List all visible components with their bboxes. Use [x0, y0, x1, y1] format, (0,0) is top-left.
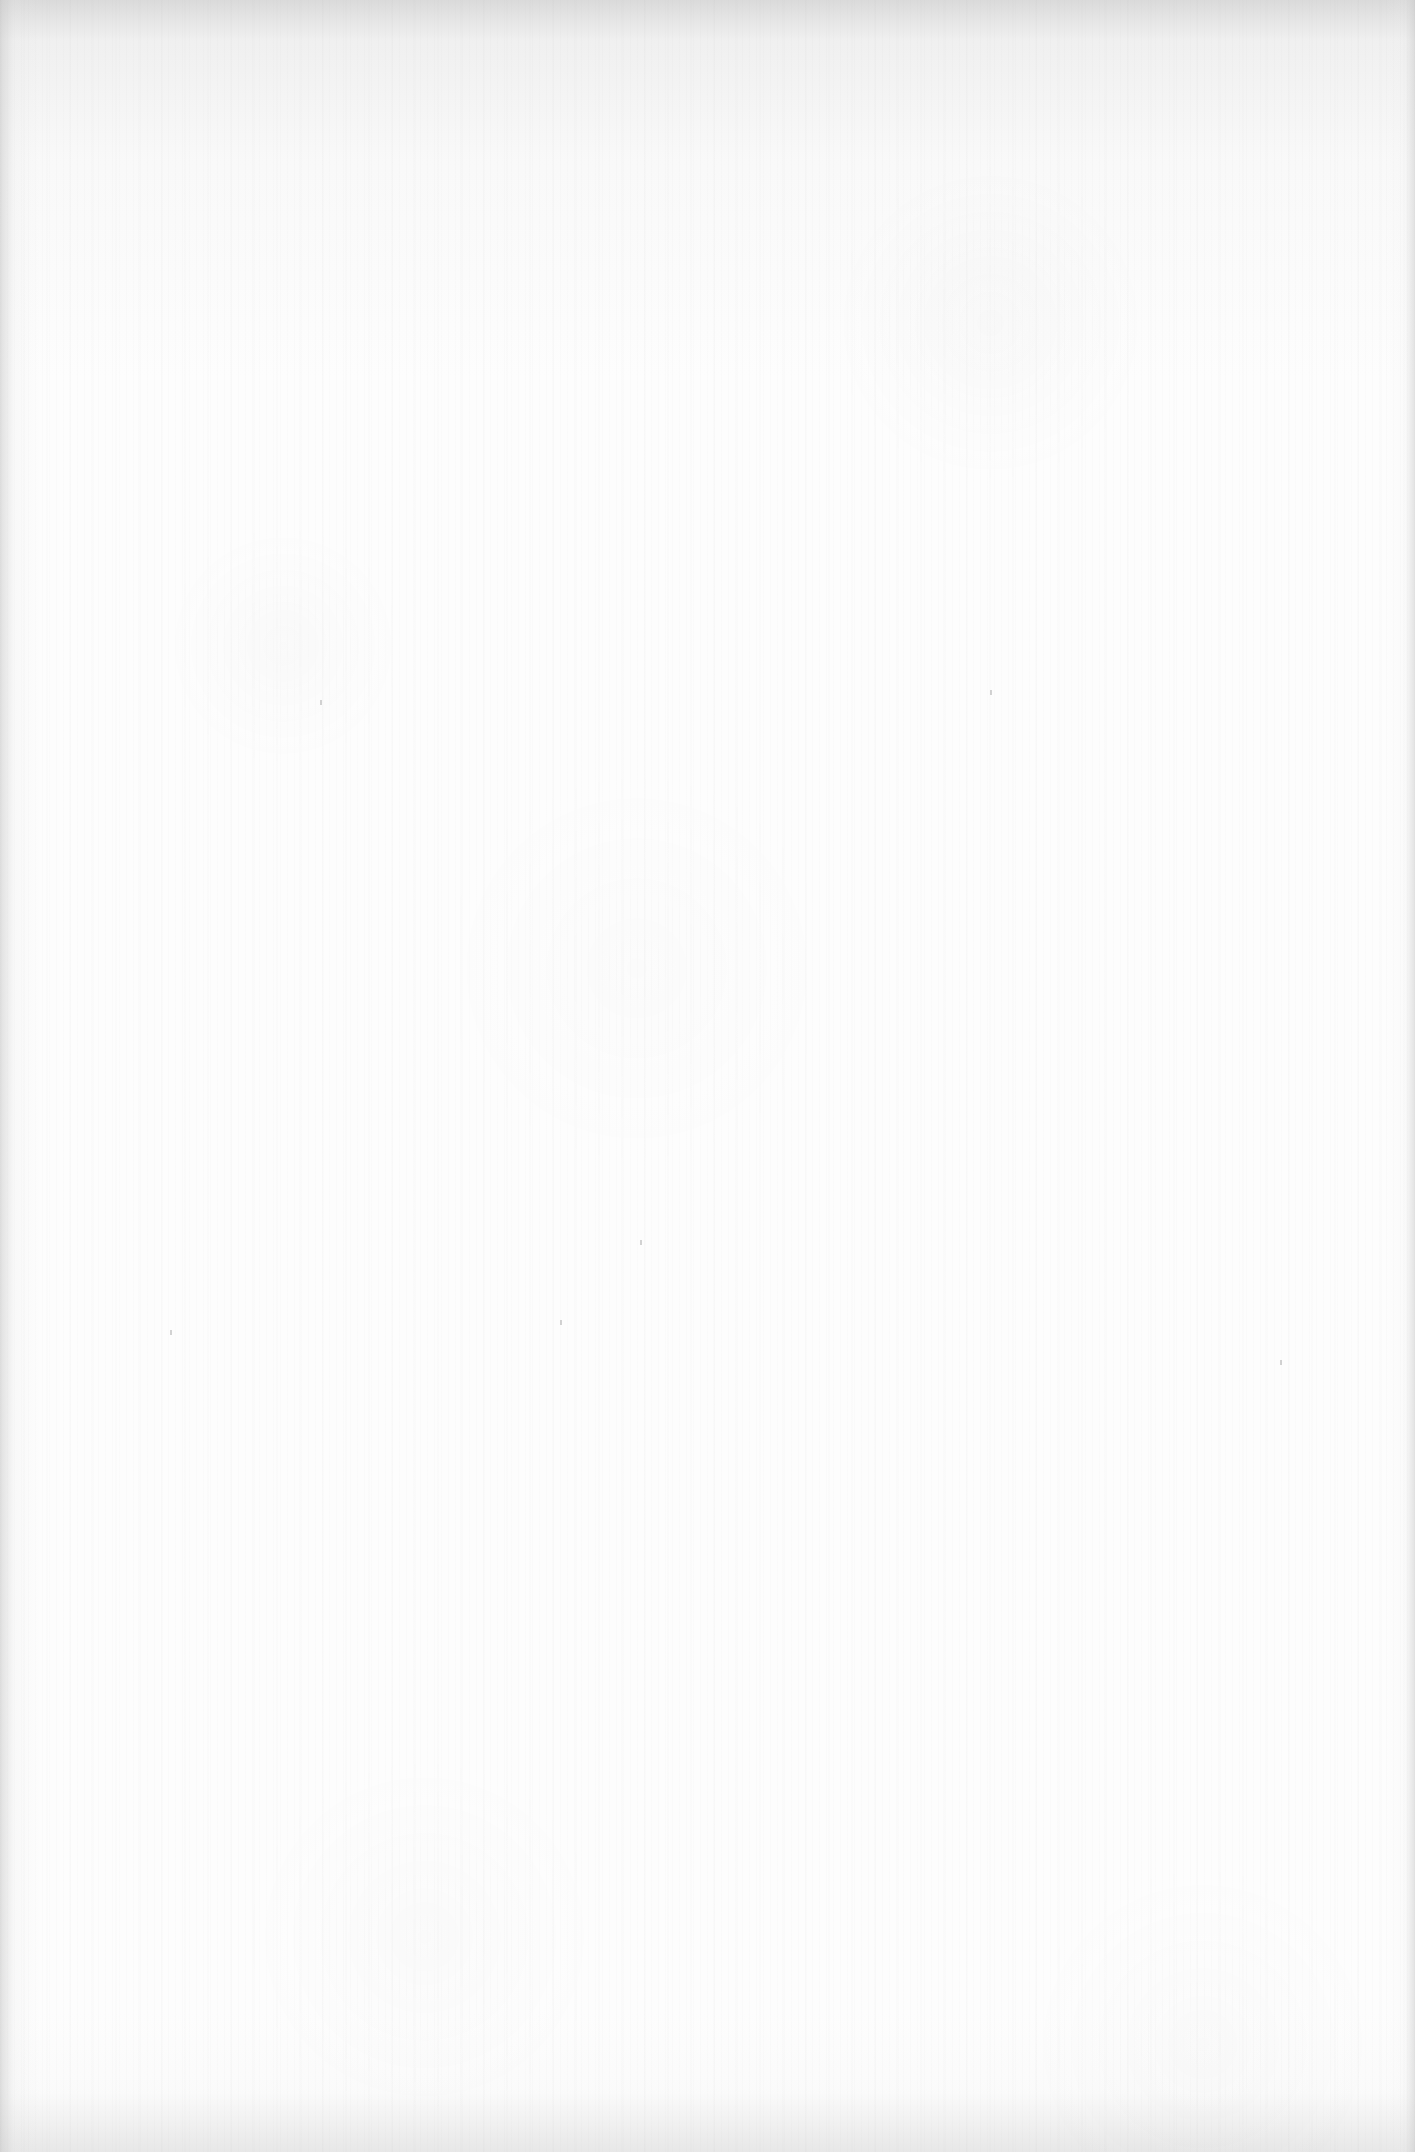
scan-speck: [1280, 1360, 1282, 1365]
scan-speck: [170, 1330, 172, 1335]
scan-bottom-shading: [0, 2012, 1415, 2152]
scan-speck: [640, 1240, 642, 1245]
scan-speck: [320, 700, 322, 705]
scan-speck: [560, 1320, 562, 1325]
scan-top-shading: [0, 0, 1415, 380]
scan-noise-texture: [0, 0, 1415, 2152]
blank-scanned-page: [0, 0, 1415, 2152]
scan-right-edge: [1385, 0, 1415, 2152]
scan-speck: [990, 690, 992, 695]
scan-left-edge: [0, 0, 40, 2152]
